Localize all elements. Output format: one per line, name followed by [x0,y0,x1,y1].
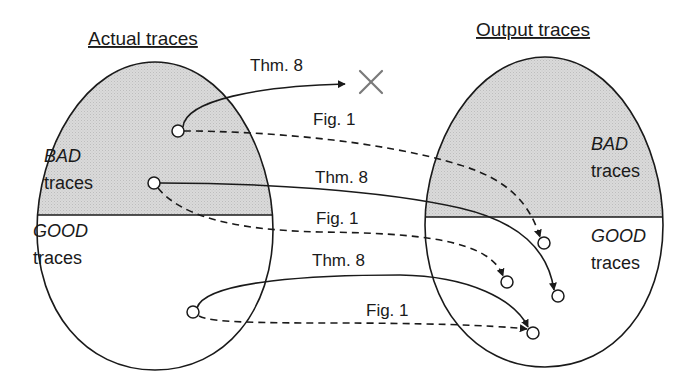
output-good-trace-node-3 [552,290,564,302]
output-traces-set: BAD traces GOOD traces [425,57,663,367]
output-good-trace-node-4 [527,327,539,339]
actual-good-trace-node-1 [187,306,199,318]
left-set-title: Actual traces [88,28,198,49]
right-bad-region [425,57,663,367]
left-good-sublabel: traces [33,248,82,268]
x-mark-icon [360,71,382,93]
edge-good1-thm8 [197,275,528,327]
edge-bad2-thm8-label: Thm. 8 [315,168,368,187]
left-good-label: GOOD [33,221,88,241]
actual-traces-set: BAD traces GOOD traces [33,62,273,370]
right-good-label: GOOD [591,226,646,246]
actual-bad-trace-node-2 [148,177,160,189]
right-bad-label: BAD [591,134,628,154]
edge-good1-fig1-label: Fig. 1 [366,301,409,320]
left-bad-region [37,62,273,370]
output-good-trace-node-1 [538,237,550,249]
left-bad-sublabel: traces [44,173,93,193]
actual-bad-trace-node-1 [172,125,184,137]
edge-bad1-fig1-label: Fig. 1 [313,110,356,129]
output-good-trace-node-2 [501,276,513,288]
right-good-sublabel: traces [591,253,640,273]
right-bad-sublabel: traces [591,161,640,181]
edge-good1-thm8-label: Thm. 8 [312,251,365,270]
left-bad-label: BAD [44,146,81,166]
right-set-title: Output traces [476,19,590,40]
edge-bad1-thm8-label: Thm. 8 [250,56,303,75]
edge-bad2-fig1-label: Fig. 1 [316,209,359,228]
traces-diagram: Actual traces Output traces BAD traces G… [0,0,688,390]
